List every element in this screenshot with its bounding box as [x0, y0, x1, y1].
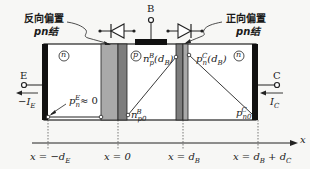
value: ≈ 0 [80, 95, 98, 106]
collector-current-arrow-icon [260, 91, 266, 96]
tick-text: x = −d [30, 151, 65, 162]
subscript: p0 [137, 115, 146, 123]
collector-contact [252, 44, 258, 120]
axis-tick-zero: x = 0 [104, 152, 131, 162]
subscript: n0 [242, 113, 251, 121]
eb-depletion-dark [118, 44, 127, 120]
pn-junction-text: pn结 [236, 26, 260, 37]
axis-tick-dB: x = dB [168, 152, 200, 162]
emitter-minority-label: pnE≈ 0 [69, 96, 98, 106]
emitter-current-label: −IE [18, 97, 35, 107]
argument: (d [207, 53, 217, 64]
tick-subscript: B [195, 157, 200, 165]
base-contact [135, 39, 167, 45]
base-edge-label: npB(dB) [143, 54, 173, 64]
emitter-contact [42, 44, 48, 120]
collector-terminal [275, 83, 280, 88]
x-axis-arrow-icon [290, 140, 298, 146]
forward-diode-icon [166, 24, 203, 38]
collector-equilibrium-label: pn0C [236, 108, 247, 118]
collector-edge-label: pnC(dB) [196, 54, 227, 64]
close-paren: ) [223, 53, 227, 64]
emitter-terminal-label: E [20, 71, 27, 81]
reverse-diode-icon [98, 24, 135, 38]
forward-bias-pn-label: pn结 [236, 27, 260, 37]
reverse-bias-label: 反向偏置 [24, 14, 64, 24]
collector-current-label: IC [270, 97, 279, 107]
eb-depletion-light [101, 44, 118, 120]
tick-text-post: + d [265, 151, 286, 162]
base-equilibrium-label: np0B [131, 110, 142, 120]
reverse-bias-pn-label: pn结 [34, 27, 58, 37]
argument: (d [154, 53, 164, 64]
current-subscript: E [30, 102, 35, 110]
current-symbol: −I [18, 96, 30, 107]
base-terminal-label: B [147, 4, 154, 14]
emitter-current-arrow-icon [16, 91, 22, 96]
pn-junction-text: pn结 [34, 26, 58, 37]
current-subscript: C [274, 102, 279, 110]
superscript: C [241, 106, 246, 114]
axis-tick-neg-dE: x = −dE [30, 152, 70, 162]
emitter-region-letter: n [61, 51, 66, 59]
tick-text: x = d [168, 151, 195, 162]
tick-text: x = d [233, 151, 260, 162]
collector-terminal-label: C [273, 71, 281, 81]
tick-subscript: E [65, 157, 70, 165]
tick-subscript-2: C [286, 157, 291, 165]
base-region-letter: p [133, 51, 138, 59]
superscript: B [136, 108, 141, 116]
close-paren: ) [170, 53, 174, 64]
base-terminal [149, 18, 154, 23]
axis-tick-dB-plus-dC: x = dB + dC [233, 152, 291, 162]
x-axis-label: x [300, 135, 306, 145]
forward-bias-label: 正向偏置 [226, 14, 266, 24]
collector-region-letter: n [236, 51, 241, 59]
emitter-terminal [22, 83, 27, 88]
tick-text: x = 0 [104, 151, 131, 162]
